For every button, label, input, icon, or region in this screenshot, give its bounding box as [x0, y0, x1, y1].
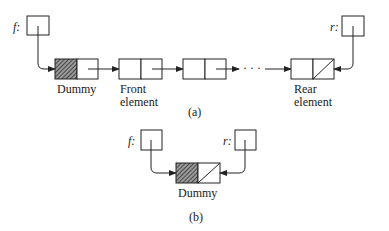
dummy-data-field: [55, 59, 77, 79]
dummy-node: Dummy: [55, 59, 119, 96]
rear-data-field: [291, 59, 313, 79]
dummy-node-b: Dummy: [176, 163, 220, 200]
caption-b: (b): [189, 210, 203, 224]
caption-a: (a): [188, 105, 201, 119]
front-pointer-label: f:: [13, 20, 20, 34]
rear-element-node: Rear element: [291, 59, 334, 109]
middle-node: [183, 59, 239, 79]
front-pointer-b-label: f:: [128, 134, 135, 148]
front-element-node: Front element: [119, 59, 183, 109]
rear-pointer-b: r:: [220, 130, 256, 173]
rear-pointer: r:: [330, 16, 364, 69]
rear-label-line1: Rear: [294, 82, 317, 96]
rear-pointer-label: r:: [330, 20, 339, 34]
front-label-line1: Front: [120, 82, 147, 96]
linked-queue-diagram: f: Dummy Front element · · ·: [0, 0, 389, 231]
middle-data-field: [183, 59, 205, 79]
front-label-line2: element: [120, 95, 159, 109]
rear-pointer-b-label: r:: [223, 134, 232, 148]
front-pointer-b: f:: [128, 130, 176, 173]
part-b: f: Dummy r: (b): [128, 130, 256, 224]
part-a: f: Dummy Front element · · ·: [13, 16, 364, 119]
dummy-b-label: Dummy: [178, 186, 217, 200]
front-pointer: f:: [13, 16, 55, 69]
rear-label-line2: element: [294, 95, 333, 109]
dummy-b-data-field: [176, 163, 198, 183]
ellipsis: · · ·: [243, 61, 261, 75]
dummy-label: Dummy: [57, 82, 96, 96]
front-data-field: [119, 59, 141, 79]
